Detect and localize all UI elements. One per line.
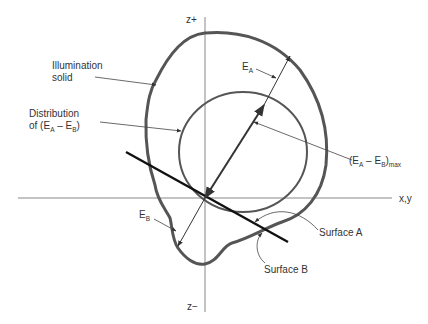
- z-plus-label: z+: [186, 14, 197, 26]
- illumination-label-line1: Illumination: [52, 60, 103, 72]
- distribution-circle: [179, 92, 307, 212]
- illumination-solid-label: Illumination solid: [52, 60, 103, 84]
- illumination-leader: [95, 77, 156, 85]
- distribution-label-line2: of (EA – EB): [29, 120, 80, 136]
- ea-label: EA: [242, 61, 253, 77]
- ea-leader: [256, 69, 276, 78]
- surface-a-label: Surface A: [319, 227, 362, 239]
- max-leader: [254, 122, 352, 160]
- ea-vector-thick: [205, 105, 264, 198]
- ea-vector-thin: [264, 56, 290, 105]
- surface-line: [126, 152, 288, 242]
- distribution-label: Distribution of (EA – EB): [29, 108, 80, 136]
- eb-vector: [178, 198, 205, 246]
- eb-label: EB: [139, 209, 150, 225]
- distribution-label-line1: Distribution: [29, 108, 80, 120]
- surface-b-leader: [257, 233, 265, 263]
- distribution-leader: [100, 122, 181, 131]
- max-label: (EA – EB)max: [349, 155, 401, 171]
- xy-label: x,y: [399, 193, 412, 205]
- illumination-label-line2: solid: [52, 72, 103, 84]
- z-minus-label: z−: [187, 301, 198, 313]
- surface-b-label: Surface B: [264, 264, 308, 276]
